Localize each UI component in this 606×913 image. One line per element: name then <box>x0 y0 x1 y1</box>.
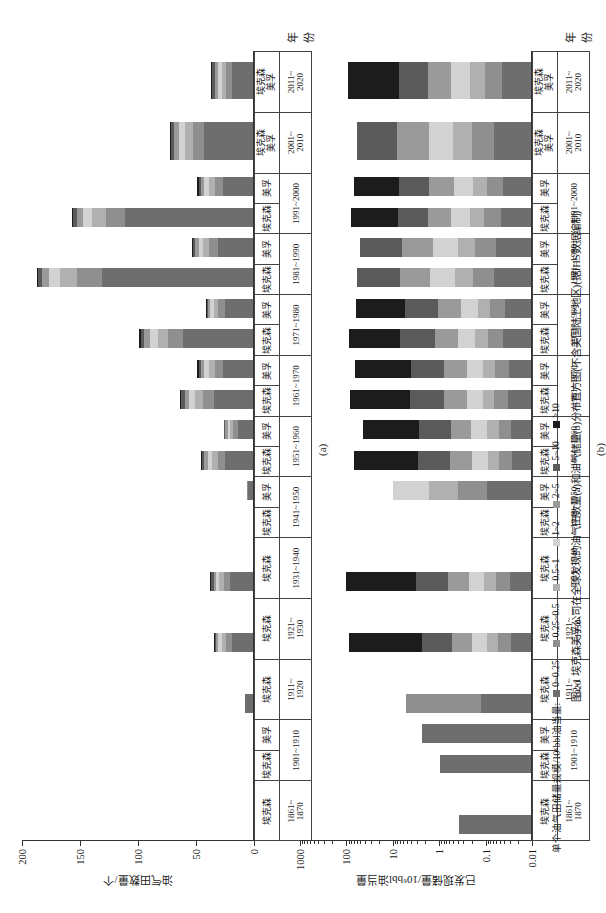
category-company-cell: 埃克森 <box>254 750 280 780</box>
y-tick <box>486 841 487 846</box>
category-company-cell: 美孚 <box>254 719 280 749</box>
bar-segment <box>223 177 253 196</box>
y-tick-minor <box>318 841 319 844</box>
bar-segment <box>232 633 253 652</box>
bar-segment <box>42 268 49 287</box>
bar-segment <box>77 268 103 287</box>
y-tick-minor <box>444 841 445 844</box>
stacked-bar <box>406 694 531 713</box>
bar-segment <box>505 299 531 318</box>
bar-segment <box>512 451 531 470</box>
y-tick-minor <box>446 841 447 844</box>
bar-segment <box>511 420 531 439</box>
stacked-bar <box>354 177 531 196</box>
bar-segment <box>484 208 500 227</box>
table-bottom-rule <box>589 51 590 841</box>
bar-segment <box>416 572 447 591</box>
category-company-cell: 埃克森美孚 <box>254 112 280 173</box>
y-tick-minor <box>411 841 412 844</box>
bar-segment <box>458 238 475 257</box>
y-tick-minor <box>304 841 305 844</box>
bar-segment <box>397 122 428 160</box>
bar-segment <box>355 360 411 379</box>
bar-segment <box>488 329 503 348</box>
y-tick-label: 100 <box>341 849 352 865</box>
bar-segment <box>83 208 92 227</box>
bar-segment <box>454 177 473 196</box>
bar-segment <box>203 390 213 409</box>
bar-segment <box>444 360 466 379</box>
y-tick-label: 50 <box>191 849 202 860</box>
category-company-cell: 埃克森 <box>254 446 280 476</box>
bar-segment <box>405 299 437 318</box>
legend-item: 2~5 <box>551 484 561 509</box>
bar-segment <box>459 815 531 834</box>
bar-segment <box>487 481 531 500</box>
bar-segment <box>209 238 218 257</box>
bar-segment <box>490 299 505 318</box>
bar-segment <box>218 299 225 318</box>
y-tick <box>80 841 81 846</box>
category-company-cell: 美孚 <box>254 355 280 385</box>
bar-segment <box>238 420 253 439</box>
bar-segment <box>214 390 253 409</box>
y-tick-label: 200 <box>17 849 28 865</box>
bar-segment <box>458 481 487 500</box>
bar-segment <box>225 451 253 470</box>
y-tick-label: 10 <box>387 849 398 860</box>
bar-segment <box>223 360 253 379</box>
stacked-bar <box>360 238 531 257</box>
bar-segment <box>495 360 509 379</box>
y-tick-minor <box>407 841 408 844</box>
bar-segment <box>428 208 451 227</box>
panel-a-bars <box>22 51 253 840</box>
stacked-bar <box>393 481 531 500</box>
bar-segment <box>452 633 472 652</box>
bar-segment <box>49 268 61 287</box>
legend-swatch-icon <box>553 690 560 697</box>
category-company-cell: 埃克森 <box>254 537 280 598</box>
category-company-cell: 美孚 <box>254 233 280 263</box>
bar-segment <box>471 420 487 439</box>
bar-segment <box>232 62 253 100</box>
bar-segment <box>193 122 205 160</box>
bar-segment <box>499 420 511 439</box>
stacked-bar <box>348 62 531 100</box>
panel-b-letter: (b) <box>594 443 606 456</box>
y-tick-label: 1000 <box>295 849 306 870</box>
bar-segment <box>499 451 512 470</box>
company-label: 美孚 <box>267 134 276 152</box>
y-tick-minor <box>302 841 303 844</box>
y-tick-minor <box>463 841 464 844</box>
category-company-cell: 埃克森美孚 <box>254 51 280 112</box>
bar-segment <box>410 390 444 409</box>
company-label: 美孚 <box>267 73 276 91</box>
bar-segment <box>435 329 459 348</box>
y-tick-minor <box>518 841 519 844</box>
bar-segment <box>356 299 406 318</box>
bar-segment <box>357 122 397 160</box>
y-tick-minor <box>500 841 501 844</box>
y-tick-minor <box>403 841 404 844</box>
stacked-bar <box>180 390 253 409</box>
bar-segment <box>429 481 458 500</box>
y-tick <box>532 841 533 846</box>
stacked-bar <box>357 122 531 160</box>
y-tick-minor <box>397 841 398 844</box>
bar-segment <box>484 572 496 591</box>
y-tick <box>439 841 440 846</box>
bar-segment <box>400 268 431 287</box>
bar-segment <box>496 238 531 257</box>
bar-segment <box>488 451 499 470</box>
y-tick-minor <box>357 841 358 844</box>
y-tick-label: 0 <box>249 849 260 854</box>
y-tick-minor <box>490 841 491 844</box>
legend-label: >10 <box>551 403 561 418</box>
bar-segment <box>218 238 253 257</box>
stacked-bar <box>351 208 531 227</box>
y-tick-minor <box>365 841 366 844</box>
bar-segment <box>444 390 467 409</box>
category-company-cell: 埃克森 <box>254 264 280 294</box>
bar-segment <box>503 329 531 348</box>
panel-a-y-axis-title: 油气田数量/个 <box>78 873 198 889</box>
